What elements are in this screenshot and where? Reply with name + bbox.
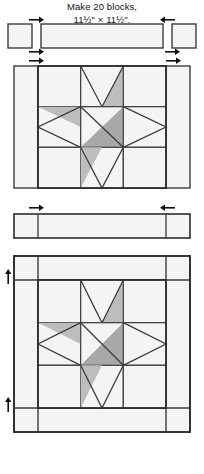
- mid-strip-seam-arrows: [29, 205, 175, 211]
- seam-arrow-bottom-right-icon: [165, 49, 180, 55]
- unit-corner-top-right: [123, 66, 166, 107]
- mid-strip-svg: [0, 202, 204, 246]
- seam-arrow-upper-left-icon: [5, 269, 11, 284]
- side-border-left: [14, 66, 38, 188]
- seam-arrow-bottom-left-icon: [29, 49, 44, 55]
- quilt-assembly-diagram: Make 20 blocks, 11½" × 11½".: [0, 0, 204, 474]
- side-border-right: [166, 66, 190, 188]
- unit-flying-geese-left: [38, 107, 81, 148]
- joined-strip-body: [14, 214, 190, 238]
- side-borders-seam-arrows: [29, 58, 181, 64]
- finished-seam-arrows: [5, 269, 11, 412]
- stage-top-sashing-strip: [0, 14, 204, 56]
- stage-joined-sashing-strip: [0, 202, 204, 246]
- unit-corner-top-right: [123, 280, 166, 323]
- corner-square-right: [172, 24, 196, 48]
- stage-block-with-side-borders: [0, 56, 204, 196]
- side-borders-svg: [0, 56, 204, 196]
- seam-arrow-top-right-icon: [160, 17, 175, 23]
- unit-flying-geese-left: [38, 323, 81, 366]
- seam-arrow-top-left-icon: [29, 17, 44, 23]
- unit-center-hst: [81, 323, 124, 366]
- top-strip-svg: [0, 14, 204, 56]
- star-block-finished: [38, 280, 166, 408]
- unit-flying-geese-top: [81, 280, 124, 323]
- unit-center-hst: [81, 107, 124, 148]
- seam-arrow-right-icon: [166, 58, 181, 64]
- unit-corner-bottom-right: [123, 147, 166, 188]
- unit-corner-top-left: [38, 280, 81, 323]
- mid-strip-pieces: [14, 214, 190, 238]
- seam-arrow-lower-left-icon: [5, 397, 11, 412]
- top-strip-pieces: [8, 24, 196, 48]
- star-block-top: [38, 66, 166, 188]
- caption-line-1: Make 20 blocks,: [0, 0, 204, 13]
- sashing-rectangle: [41, 24, 163, 48]
- unit-flying-geese-bottom: [81, 147, 124, 188]
- finished-block-svg: [0, 252, 204, 438]
- corner-square-left: [8, 24, 32, 48]
- unit-corner-top-left: [38, 66, 81, 107]
- seam-arrow-right-icon: [160, 205, 175, 211]
- unit-flying-geese-right: [123, 107, 166, 148]
- seam-arrow-left-icon: [29, 58, 44, 64]
- unit-corner-bottom-left: [38, 365, 81, 408]
- unit-corner-bottom-right: [123, 365, 166, 408]
- unit-flying-geese-bottom: [81, 365, 124, 408]
- seam-arrow-left-icon: [29, 205, 44, 211]
- unit-flying-geese-right: [123, 323, 166, 366]
- unit-corner-bottom-left: [38, 147, 81, 188]
- stage-finished-block: [0, 252, 204, 438]
- unit-flying-geese-top: [81, 66, 124, 107]
